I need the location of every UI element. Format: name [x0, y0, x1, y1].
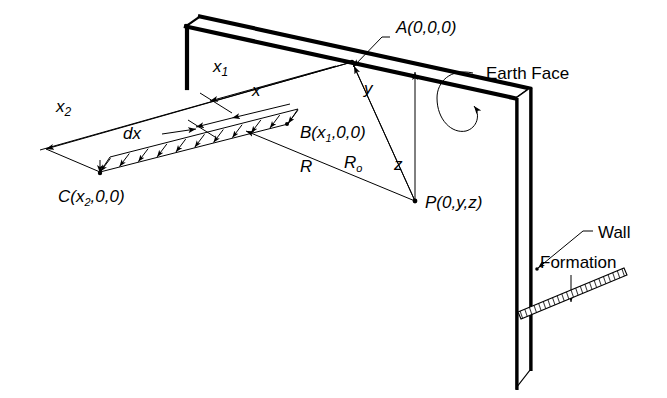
label-dim-x2: x2	[55, 97, 72, 119]
dim-line-x-left	[196, 118, 232, 127]
hatched-formation-icon	[518, 268, 627, 319]
dim-line-dx	[162, 129, 196, 134]
label-point-c-sub: 2	[83, 196, 90, 208]
engineering-diagram-figure: A(0,0,0) Earth Face Wall Formation B(x1,…	[0, 0, 667, 398]
label-earth-face: Earth Face	[486, 64, 569, 83]
point-a-dot	[350, 60, 354, 64]
label-point-c-main: C(x	[58, 187, 85, 206]
label-formation: Formation	[540, 253, 617, 272]
formation-band	[518, 268, 627, 319]
label-axis-z: z	[393, 155, 403, 174]
label-dim-dx: dx	[123, 124, 141, 143]
load-arrow	[288, 110, 298, 123]
label-vector-ro-sub: o	[356, 162, 362, 174]
label-vector-ro-main: R	[344, 153, 356, 172]
diagram-canvas: A(0,0,0) Earth Face Wall Formation B(x1,…	[0, 0, 667, 398]
point-c-dot	[98, 171, 102, 175]
label-dim-x: x	[251, 81, 261, 100]
dim-x-extension-tick	[188, 120, 215, 137]
label-vector-r: R	[300, 157, 312, 176]
label-point-a: A(0,0,0)	[395, 18, 456, 37]
dim-line-x-right	[232, 104, 290, 118]
label-point-p: P(0,y,z)	[425, 193, 482, 212]
label-axis-y: y	[363, 79, 374, 98]
label-point-c-tail: ,0,0)	[91, 187, 125, 206]
label-dim-x2-main: x	[55, 97, 65, 116]
label-vector-ro: Ro	[344, 153, 362, 174]
label-wall: Wall	[598, 223, 630, 242]
label-dim-x1: x1	[212, 57, 228, 79]
label-dim-x2-sub: 2	[64, 105, 72, 119]
wall-top-face	[186, 16, 530, 98]
point-b-dot	[285, 122, 289, 126]
label-dim-x1-main: x	[212, 57, 222, 76]
label-point-b-main: B(x	[300, 123, 326, 142]
dim-line-x1	[210, 66, 336, 101]
point-p-dot	[413, 199, 418, 204]
wall-leader-dot	[535, 267, 539, 271]
strip-left-connector	[46, 149, 100, 172]
label-point-b: B(x1,0,0)	[300, 123, 366, 144]
label-dim-x1-sub: 1	[222, 65, 229, 79]
label-point-b-tail: ,0,0)	[332, 123, 366, 142]
wall-top-back-edge	[200, 17, 530, 89]
label-point-c: C(x2,0,0)	[58, 187, 125, 208]
